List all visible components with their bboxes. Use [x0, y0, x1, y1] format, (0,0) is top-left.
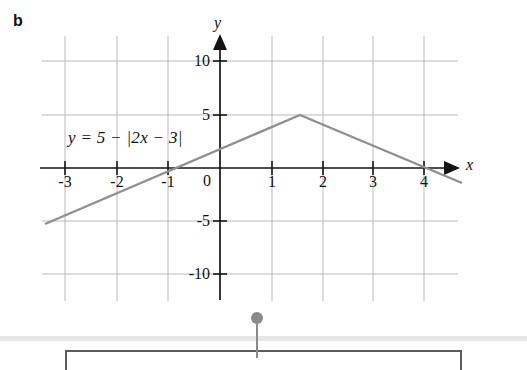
- x-axis-label: x: [466, 156, 473, 174]
- x-axis: [40, 161, 460, 175]
- y-axis-arrowhead: [213, 34, 227, 50]
- y-axis: [213, 34, 227, 300]
- x-tick-label-neg3: -3: [58, 173, 71, 191]
- x-tick-label-2: 2: [319, 173, 327, 191]
- x-tick-label-1: 1: [268, 173, 276, 191]
- y-axis-label: y: [214, 14, 221, 32]
- y-tick-label-neg5: -5: [197, 212, 210, 230]
- x-tick-label-3: 3: [369, 173, 377, 191]
- page-edge-band: [0, 336, 527, 341]
- x-tick-label-neg2: -2: [110, 173, 123, 191]
- x-axis-arrowhead: [444, 161, 460, 175]
- callout-pin-head: [251, 312, 263, 324]
- y-tick-label-10: 10: [194, 52, 210, 70]
- y-tick-label-neg10: -10: [189, 265, 210, 283]
- x-tick-label-neg1: -1: [161, 173, 174, 191]
- equation-annotation: y = 5 − |2x − 3|: [68, 128, 183, 148]
- origin-label: 0: [203, 172, 211, 190]
- callout-pin-stem: [256, 318, 258, 358]
- callout-box: [65, 350, 462, 370]
- y-tick-label-5: 5: [202, 106, 210, 124]
- x-tick-label-4: 4: [420, 173, 428, 191]
